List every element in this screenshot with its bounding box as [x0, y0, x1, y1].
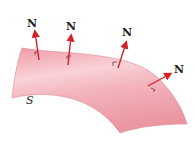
surface-normals-diagram: N N N N S: [0, 0, 195, 143]
surface-label: S: [26, 94, 34, 107]
normal-label: N: [66, 20, 76, 33]
normal-label: N: [122, 26, 132, 39]
normal-label: N: [27, 17, 37, 30]
surface-s: [12, 48, 187, 133]
normal-label: N: [174, 63, 184, 76]
